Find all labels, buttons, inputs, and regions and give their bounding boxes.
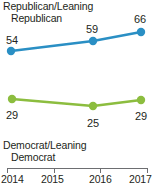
republican-line	[11, 32, 141, 51]
x-axis-label-2016: 2016	[89, 174, 112, 185]
chart-container: Republican/Leaning Republican 54 59 66 2…	[0, 0, 154, 186]
republican-marker-2014	[7, 47, 15, 55]
democrat-marker-2016	[89, 102, 97, 110]
democrat-marker-2014	[8, 95, 16, 103]
x-axis-label-2014: 2014	[1, 174, 24, 185]
democrat-line	[12, 99, 141, 106]
plot-area	[0, 0, 154, 186]
x-axis-label-2015: 2015	[41, 174, 64, 185]
x-axis-label-2017: 2017	[129, 174, 152, 185]
republican-marker-2016	[89, 37, 97, 45]
republican-marker-2017	[137, 28, 145, 36]
democrat-marker-2017	[137, 96, 145, 104]
